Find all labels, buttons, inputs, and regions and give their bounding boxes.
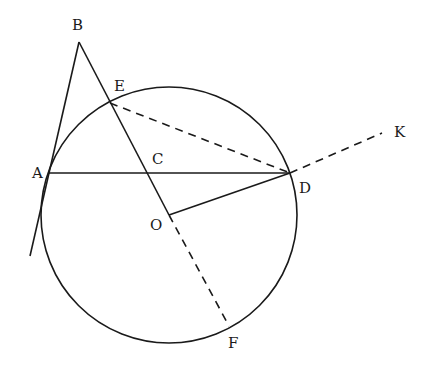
label-b: B xyxy=(72,16,83,34)
label-o: O xyxy=(150,216,162,234)
label-c: C xyxy=(152,150,163,168)
label-k: K xyxy=(394,123,406,141)
line-ab-tangent xyxy=(30,42,79,256)
geometry-diagram: A B C D E F K O xyxy=(0,0,428,368)
dashed-ed xyxy=(110,103,290,173)
dashed-dk xyxy=(290,133,382,173)
label-a: A xyxy=(31,164,43,182)
label-e: E xyxy=(114,77,125,95)
radius-od xyxy=(169,173,290,215)
line-bo xyxy=(79,42,169,215)
label-d: D xyxy=(299,179,311,197)
dashed-of xyxy=(169,215,229,326)
label-f: F xyxy=(228,334,238,352)
